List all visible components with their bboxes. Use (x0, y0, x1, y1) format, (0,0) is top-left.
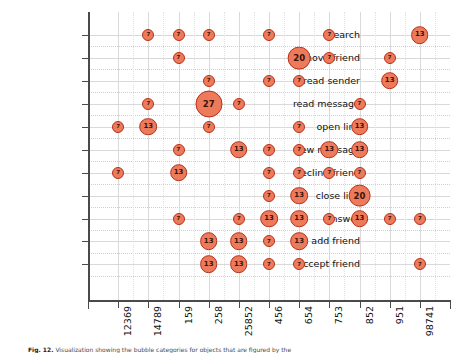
axis-end-cap (88, 300, 89, 309)
bubble-data-point[interactable]: 13 (230, 141, 248, 159)
grid-line-vertical (148, 12, 149, 300)
grid-line-minor-vertical (224, 12, 225, 300)
bubble-data-point[interactable]: 7 (263, 29, 275, 41)
bubble-data-point[interactable]: 13 (351, 118, 369, 136)
bubble-data-point[interactable]: 7 (414, 258, 426, 270)
bubble-data-point[interactable]: 27 (195, 90, 222, 117)
figure-caption: Fig. 12. Visualization showing the bubbl… (28, 346, 440, 353)
y-axis-tick (82, 81, 88, 82)
bubble-data-point[interactable]: 7 (354, 98, 366, 110)
y-axis-tick (82, 264, 88, 265)
bubble-data-point[interactable]: 13 (200, 256, 218, 274)
bubble-data-point[interactable]: 7 (203, 75, 215, 87)
x-axis-tick (299, 302, 300, 308)
bubble-data-point[interactable]: 20 (348, 184, 371, 207)
y-axis-tick (82, 35, 88, 36)
bubble-data-point[interactable]: 7 (233, 213, 245, 225)
x-axis-tick (329, 302, 330, 308)
bubble-data-point[interactable]: 7 (203, 121, 215, 133)
x-axis-tick-label: 852 (364, 306, 375, 324)
bubble-data-point[interactable]: 7 (263, 258, 275, 270)
x-axis-tick-label: 159 (183, 306, 194, 324)
x-axis-tick-label: 654 (303, 306, 314, 324)
bubble-data-point[interactable]: 7 (293, 167, 305, 179)
y-axis-tick (82, 173, 88, 174)
bubble-data-point[interactable]: 7 (293, 121, 305, 133)
bubble-data-point[interactable]: 7 (173, 144, 185, 156)
grid-line-minor-horizontal (88, 46, 450, 47)
bubble-data-point[interactable]: 13 (260, 210, 278, 228)
x-axis-tick (239, 302, 240, 308)
x-axis-tick-label: 12369 (122, 306, 133, 336)
bubble-data-point[interactable]: 7 (173, 29, 185, 41)
bubble-data-point[interactable]: 7 (173, 52, 185, 64)
bubble-data-point[interactable]: 13 (321, 141, 339, 159)
figure: searchremove friendread senderread messa… (0, 0, 454, 358)
bubble-data-point[interactable]: 13 (381, 72, 399, 90)
bubble-data-point[interactable]: 13 (411, 26, 429, 44)
grid-line-minor-horizontal (88, 276, 450, 277)
x-axis-tick-label: 25852 (243, 306, 254, 336)
grid-line-minor-horizontal (88, 253, 450, 254)
grid-line-minor-vertical (435, 12, 436, 300)
bubble-data-point[interactable]: 7 (263, 190, 275, 202)
bubble-data-point[interactable]: 7 (142, 98, 154, 110)
caption-text: Visualization showing the bubble categor… (55, 346, 291, 353)
bubble-data-point[interactable]: 7 (233, 98, 245, 110)
bubble-data-point[interactable]: 13 (170, 164, 188, 182)
bubble-data-point[interactable]: 7 (384, 213, 396, 225)
grid-line-vertical (420, 12, 421, 300)
bubble-data-point[interactable]: 13 (140, 118, 158, 136)
x-axis-tick-label: 951 (394, 306, 405, 324)
x-axis-tick-label: 258 (213, 306, 224, 324)
x-axis-tick (148, 302, 149, 308)
bubble-data-point[interactable]: 7 (323, 213, 335, 225)
y-axis-tick (82, 58, 88, 59)
bubble-data-point[interactable]: 13 (230, 256, 248, 274)
bubble-data-point[interactable]: 7 (263, 235, 275, 247)
bubble-data-point[interactable]: 7 (354, 167, 366, 179)
bubble-data-point[interactable]: 13 (351, 210, 369, 228)
bubble-data-point[interactable]: 7 (112, 121, 124, 133)
grid-line-minor-horizontal (88, 115, 450, 116)
bubble-data-point[interactable]: 7 (142, 29, 154, 41)
bubble-data-point[interactable]: 13 (230, 233, 248, 251)
bubble-data-point[interactable]: 13 (351, 141, 369, 159)
grid-line-minor-horizontal (88, 184, 450, 185)
bubble-data-point[interactable]: 7 (323, 167, 335, 179)
y-axis-tick-label: accept friend (297, 259, 360, 269)
bubble-data-point[interactable]: 7 (414, 213, 426, 225)
y-axis-line (88, 12, 90, 300)
bubble-data-point[interactable]: 7 (293, 75, 305, 87)
bubble-data-point[interactable]: 7 (384, 52, 396, 64)
bubble-data-point[interactable]: 13 (290, 210, 308, 228)
bubble-data-point[interactable]: 7 (263, 75, 275, 87)
bubble-data-point[interactable]: 7 (263, 167, 275, 179)
bubble-data-point[interactable]: 7 (293, 144, 305, 156)
bubble-data-point[interactable]: 7 (173, 213, 185, 225)
bubble-data-point[interactable]: 7 (112, 167, 124, 179)
bubble-data-point[interactable]: 7 (323, 29, 335, 41)
bubble-data-point[interactable]: 7 (293, 258, 305, 270)
bubble-data-point[interactable]: 13 (290, 233, 308, 251)
bubble-chart-plot-area (88, 12, 450, 300)
y-axis-tick (82, 219, 88, 220)
grid-line-minor-vertical (375, 12, 376, 300)
bubble-data-point[interactable]: 13 (290, 187, 308, 205)
y-axis-tick (82, 150, 88, 151)
grid-line-minor-horizontal (88, 161, 450, 162)
x-axis-tick (420, 302, 421, 308)
bubble-data-point[interactable]: 7 (323, 52, 335, 64)
grid-line-minor-vertical (194, 12, 195, 300)
bubble-data-point[interactable]: 20 (288, 47, 311, 70)
bubble-data-point[interactable]: 13 (200, 233, 218, 251)
x-axis-tick (179, 302, 180, 308)
bubble-data-point[interactable]: 7 (203, 29, 215, 41)
grid-line-minor-vertical (254, 12, 255, 300)
grid-line-minor-horizontal (88, 138, 450, 139)
y-axis-tick (82, 127, 88, 128)
grid-line-minor-horizontal (88, 230, 450, 231)
grid-line-minor-vertical (133, 12, 134, 300)
bubble-data-point[interactable]: 7 (263, 144, 275, 156)
y-axis-tick (82, 196, 88, 197)
